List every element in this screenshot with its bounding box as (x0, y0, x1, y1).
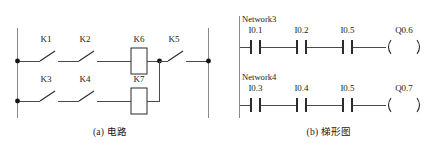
label-k7: K7 (134, 74, 145, 84)
n4-contact-3-label: I0.5 (340, 83, 355, 93)
label-k3: K3 (41, 74, 52, 84)
n4-contact-1-label: I0.3 (248, 83, 263, 93)
n3-coil-left-paren (389, 40, 392, 54)
ladder-network-4: Network4 I0.3 I0.4 I0.5 (240, 72, 420, 112)
caption-ladder: (b) 梯形图 (220, 124, 438, 138)
n4-coil-left-paren (389, 98, 392, 112)
n4-coil-right-paren (417, 98, 420, 112)
label-k1: K1 (41, 34, 52, 44)
switch-k4-blade (79, 91, 94, 101)
n3-contact-2-label: I0.2 (294, 25, 308, 35)
figure-root: K1 K2 K6 K5 K3 K4 K7 (a) 电路 Network3 (0, 0, 438, 148)
left-rail-node-lower (15, 99, 20, 104)
caption-circuit: (a) 电路 (0, 124, 220, 138)
coil-k7-box (131, 88, 147, 114)
switch-k5-blade (168, 51, 183, 61)
n3-coil-right-paren (417, 40, 420, 54)
switch-k2-blade (79, 51, 94, 61)
ladder-diagram: Network3 I0.1 I0.2 I0.5 (220, 0, 438, 124)
n3-coil-label: Q0.6 (395, 25, 413, 35)
left-rail-node-upper (15, 59, 20, 64)
switch-k3-blade (40, 91, 55, 101)
switch-k1-blade (40, 51, 55, 61)
coil-k6-box (131, 48, 147, 74)
label-k6: K6 (134, 34, 145, 44)
network-4-label: Network4 (242, 72, 277, 82)
label-k5: K5 (169, 34, 180, 44)
network-3-label: Network3 (242, 14, 276, 24)
n3-contact-1-label: I0.1 (248, 25, 262, 35)
n4-contact-2-label: I0.4 (294, 83, 309, 93)
n3-contact-3-label: I0.5 (340, 25, 355, 35)
ladder-network-3: Network3 I0.1 I0.2 I0.5 (240, 14, 420, 54)
right-rail-node (206, 59, 211, 64)
circuit-diagram: K1 K2 K6 K5 K3 K4 K7 (0, 0, 220, 124)
circuit-panel: K1 K2 K6 K5 K3 K4 K7 (a) 电路 (0, 0, 220, 148)
ladder-panel: Network3 I0.1 I0.2 I0.5 (220, 0, 438, 148)
label-k2: K2 (80, 34, 91, 44)
n4-coil-label: Q0.7 (395, 83, 413, 93)
label-k4: K4 (80, 74, 91, 84)
